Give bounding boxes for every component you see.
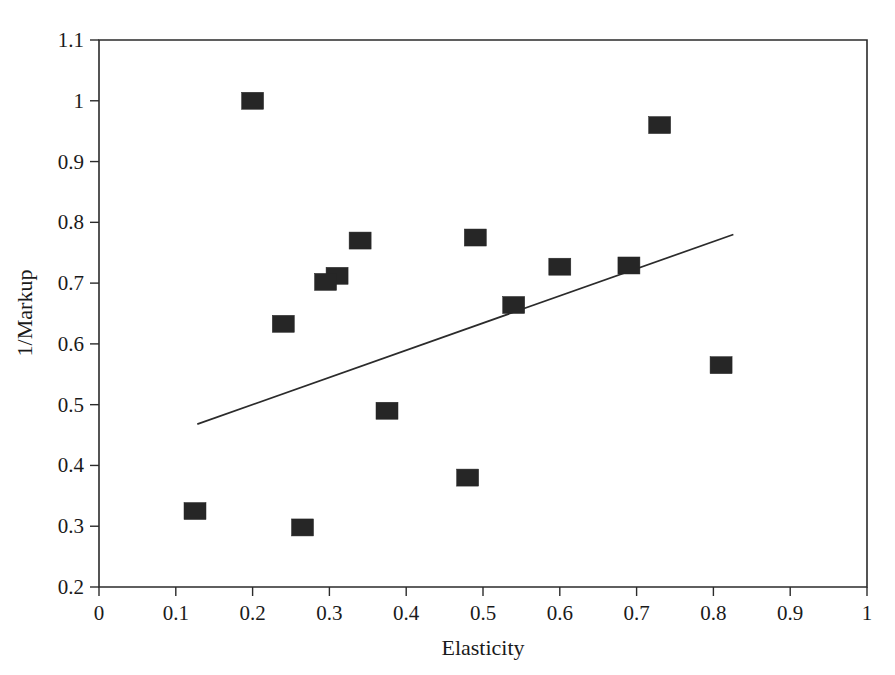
x-axis-title: Elasticity [441,635,524,660]
data-point-marker [349,232,371,249]
data-point-marker [549,258,571,275]
x-tick-label: 0.1 [163,601,189,625]
data-point-marker [618,257,640,274]
x-tick-label: 0.7 [623,601,649,625]
data-point-marker [649,117,671,134]
x-tick-label: 0.3 [316,601,342,625]
y-tick-label: 0.5 [58,393,84,417]
y-tick-label: 0.7 [58,271,84,295]
data-point-marker [464,229,486,246]
data-point-marker [376,402,398,419]
data-point-marker [184,503,206,520]
data-point-marker [242,92,264,109]
y-tick-label: 0.8 [58,210,84,234]
x-tick-label: 0.8 [700,601,726,625]
x-tick-label: 0 [94,601,105,625]
y-tick-label: 0.2 [58,575,84,599]
y-tick-label: 0.3 [58,514,84,538]
y-tick-label: 1.1 [58,28,84,52]
data-point-marker [710,357,732,374]
x-tick-label: 1 [862,601,873,625]
chart-canvas: 00.10.20.30.40.50.60.70.80.91 0.20.30.40… [0,0,895,675]
data-point-marker [292,519,314,536]
axes-group [99,40,867,587]
y-tick-label: 0.9 [58,150,84,174]
y-axis-title: 1/Markup [12,270,37,357]
plot-frame [99,40,867,587]
y-tick-label: 0.6 [58,332,84,356]
x-tick-label: 0.5 [470,601,496,625]
data-point-marker [315,273,337,290]
tick-marks-group [90,40,867,596]
y-axis-tick-labels: 0.20.30.40.50.60.70.80.911.1 [58,28,85,599]
x-tick-label: 0.6 [547,601,573,625]
y-tick-label: 1 [74,89,85,113]
scatter-chart-figure: 00.10.20.30.40.50.60.70.80.91 0.20.30.40… [0,0,895,675]
y-tick-label: 0.4 [58,453,85,477]
data-points-group [184,92,732,536]
data-point-marker [272,315,294,332]
x-tick-label: 0.9 [777,601,803,625]
data-point-marker [457,469,479,486]
x-tick-label: 0.4 [393,601,420,625]
x-tick-label: 0.2 [239,601,265,625]
x-axis-tick-labels: 00.10.20.30.40.50.60.70.80.91 [94,601,873,625]
data-point-marker [503,296,525,313]
